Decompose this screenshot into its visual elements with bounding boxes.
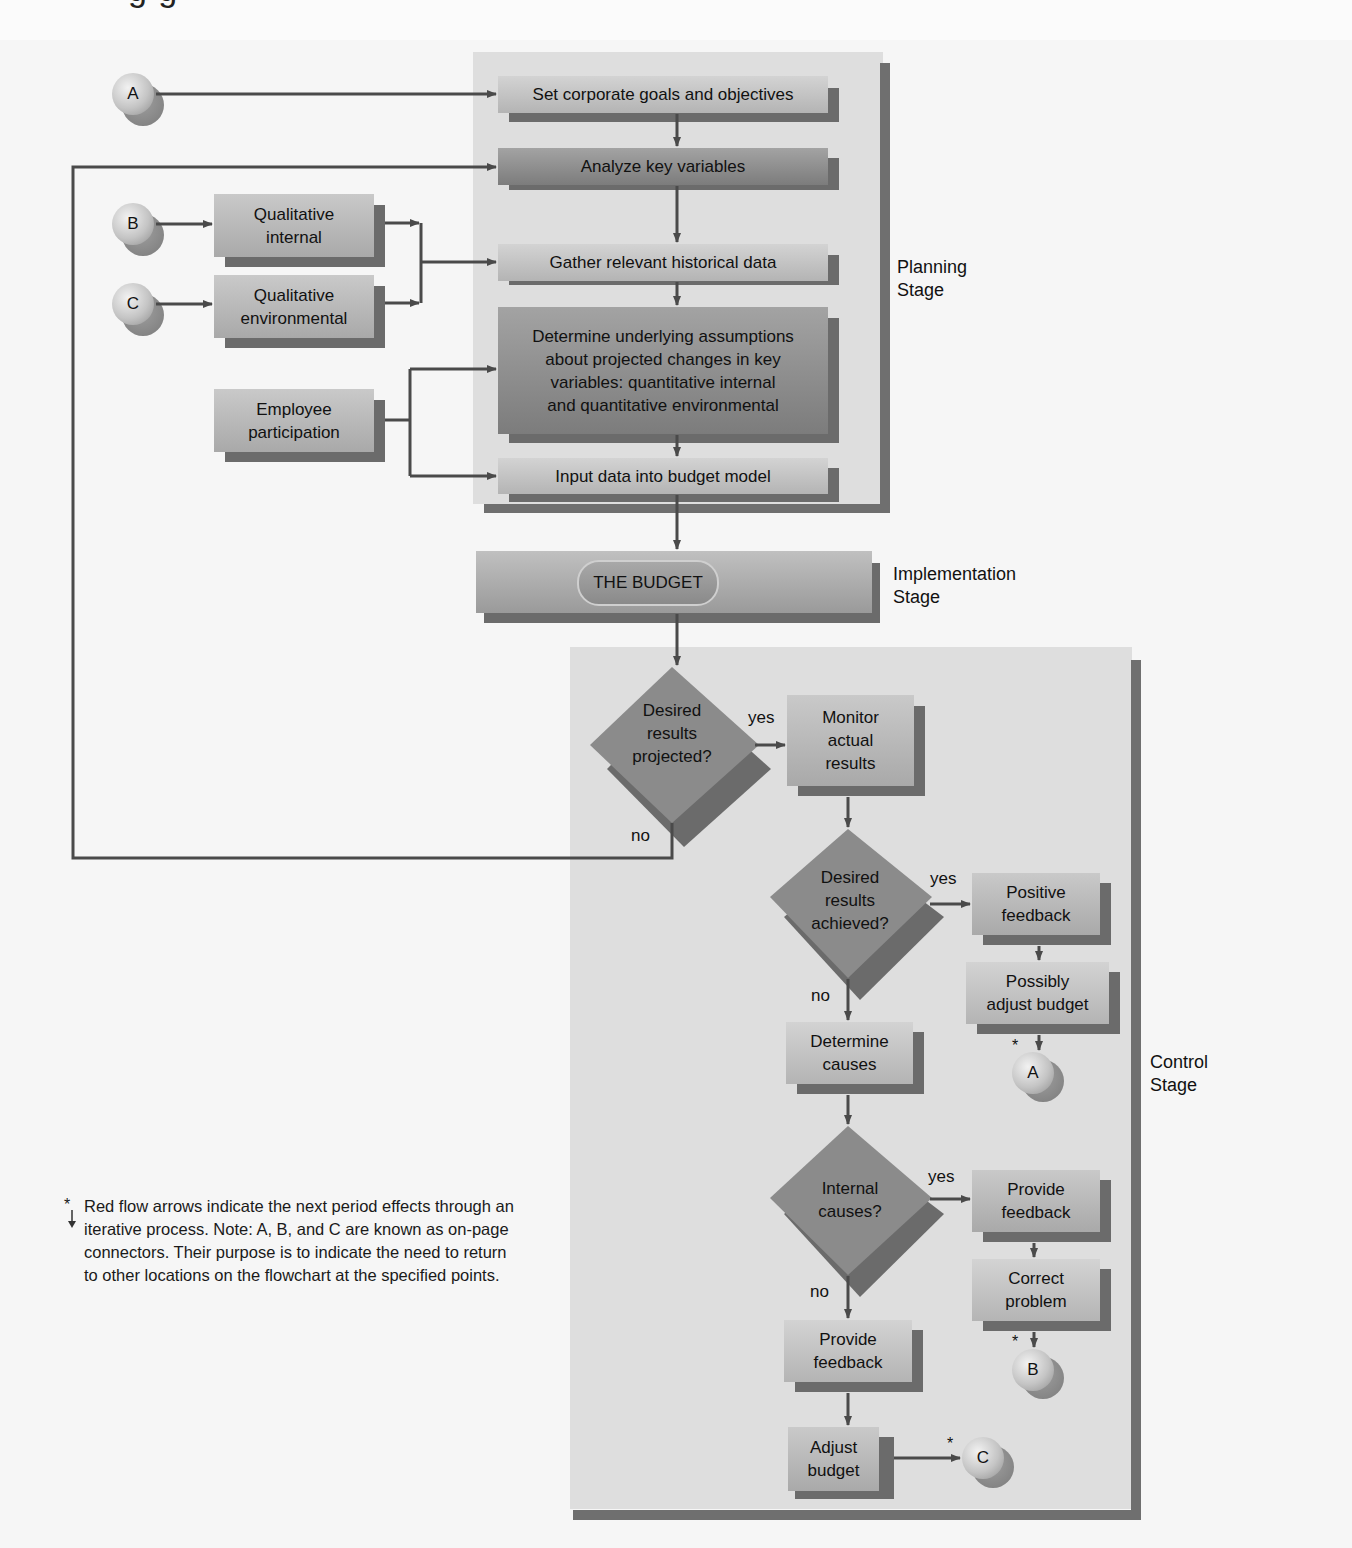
achieved-yes-label: yes <box>930 869 956 889</box>
adjust-budget-box[interactable]: Adjust budget <box>788 1427 879 1491</box>
connector-a-start[interactable]: A <box>112 73 154 115</box>
note-asterisk: * <box>64 1196 80 1214</box>
decision-internal[interactable]: Internal causes? <box>780 1176 920 1224</box>
next-period-star-c: * <box>947 1435 953 1453</box>
decision-diamonds <box>0 0 1352 1548</box>
next-period-star-a: * <box>1012 1037 1018 1055</box>
achieved-no-label: no <box>811 986 830 1006</box>
connector-a-end[interactable]: A <box>1012 1052 1054 1094</box>
positive-feedback-box[interactable]: Positive feedback <box>972 873 1100 935</box>
correct-problem-box[interactable]: Correct problem <box>972 1259 1100 1321</box>
the-budget-button[interactable]: THE BUDGET <box>577 560 719 606</box>
connector-c-end[interactable]: C <box>962 1437 1004 1479</box>
next-period-star-b: * <box>1012 1333 1018 1351</box>
internal-yes-label: yes <box>928 1167 954 1187</box>
projected-no-label: no <box>631 826 650 846</box>
implementation-stage-label: Implementation Stage <box>893 563 1016 609</box>
planning-stage-label: Planning Stage <box>897 256 967 302</box>
connector-b-start[interactable]: B <box>112 203 154 245</box>
decision-achieved[interactable]: Desired results achieved? <box>780 865 920 935</box>
possibly-adjust-box[interactable]: Possibly adjust budget <box>966 962 1109 1024</box>
connector-b-end[interactable]: B <box>1012 1349 1054 1391</box>
determine-causes-box[interactable]: Determine causes <box>786 1022 913 1084</box>
provide-feedback-yes-box[interactable]: Provide feedback <box>972 1170 1100 1232</box>
connector-c-start[interactable]: C <box>112 283 154 325</box>
projected-yes-label: yes <box>748 708 774 728</box>
decision-projected[interactable]: Desired results projected? <box>602 698 742 768</box>
internal-no-label: no <box>810 1282 829 1302</box>
monitor-results-box[interactable]: Monitor actual results <box>787 695 914 786</box>
control-stage-label: Control Stage <box>1150 1051 1208 1097</box>
provide-feedback-no-box[interactable]: Provide feedback <box>784 1320 912 1382</box>
footnote-text: Red flow arrows indicate the next period… <box>84 1195 514 1287</box>
